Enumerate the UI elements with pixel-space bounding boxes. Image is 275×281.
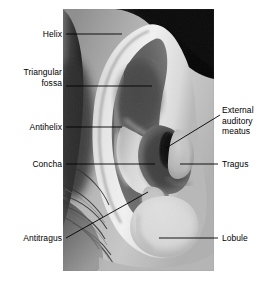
ear-photograph-image [63,9,214,271]
label-concha: Concha [6,159,62,170]
ear-photograph [63,9,214,271]
label-lobule: Lobule [222,233,275,244]
label-external-auditory-meatus: External auditory meatus [222,105,275,137]
label-tragus: Tragus [222,159,275,170]
label-antihelix: Antihelix [4,122,62,133]
label-triangular-fossa: Triangular fossa [2,67,62,88]
label-antitragus: Antitragus [2,233,62,244]
ear-anatomy-figure: Helix Triangular fossa Antihelix Concha … [0,0,275,281]
label-helix: Helix [6,29,62,40]
